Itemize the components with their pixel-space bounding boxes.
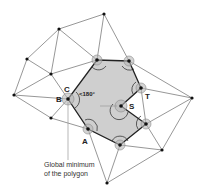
label-b: B [56,95,62,104]
label-t: T [145,92,150,101]
label-s: S [129,102,135,111]
caption-line-2: of the polygon [44,170,88,178]
angle-label: <180° [79,91,96,97]
label-a: A [82,137,88,146]
triangulation-diagram: C B A S T <180° Global minimum of the po… [0,0,203,195]
label-c: C [64,85,70,94]
caption-line-1: Global minimum [44,161,95,168]
